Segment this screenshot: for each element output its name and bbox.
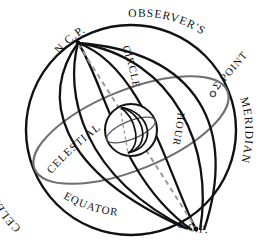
label-meridian: MERIDIAN: [238, 96, 255, 166]
label-meridian-text: MERIDIAN: [238, 96, 255, 166]
earth-globe: [104, 104, 159, 156]
label-celestial-sphere-text: CELESTIAL SPHERE: [0, 113, 23, 235]
label-celestial-sphere: CELESTIAL SPHERE: [0, 113, 23, 235]
celestial-sphere-svg: CELESTIAL SPHERE N.C.P. OBSERVER'S Σ POI…: [0, 0, 271, 251]
celestial-sphere-figure: CELESTIAL SPHERE N.C.P. OBSERVER'S Σ POI…: [0, 0, 271, 251]
ncp-marker: [76, 41, 81, 46]
